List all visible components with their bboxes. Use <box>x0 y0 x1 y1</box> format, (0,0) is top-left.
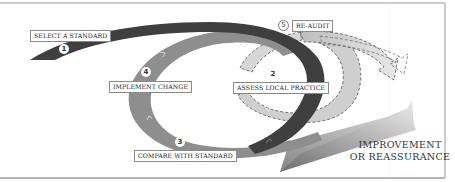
step-3-label: COMPARE WITH STANDARD <box>134 150 237 162</box>
outcome-line-1: IMPROVEMENT <box>340 139 455 151</box>
step-5-label: RE-AUDIT <box>292 20 333 32</box>
outcome-label: IMPROVEMENT OR REASSURANCE <box>340 139 455 163</box>
step-1-label: SELECT A STANDARD <box>30 30 111 42</box>
step-3-number: 3 <box>175 137 185 147</box>
step-2-number: 2 <box>268 69 278 79</box>
step-1-number: 1 <box>59 44 69 54</box>
step-4-number: 4 <box>141 67 151 77</box>
step-5-number: 5 <box>278 20 289 31</box>
outcome-line-2: OR REASSURANCE <box>340 151 455 163</box>
step-4-label: IMPLEMENT CHANGE <box>109 81 192 93</box>
step-2-label: ASSESS LOCAL PRACTICE <box>233 82 329 94</box>
